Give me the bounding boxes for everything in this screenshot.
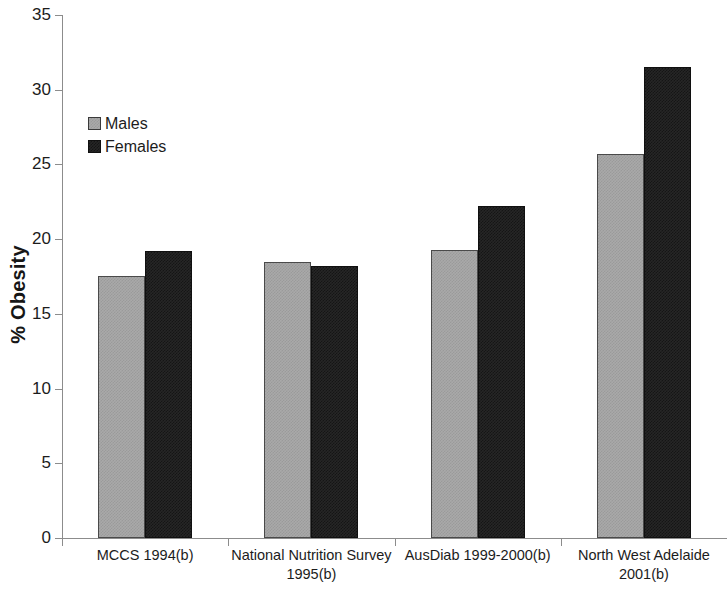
plot-area: 05101520253035 [62,15,727,538]
y-axis-tick-label: 30 [32,80,51,100]
y-axis-tick-mark [55,389,62,390]
x-axis-category-label-line: National Nutrition Survey [228,546,394,565]
y-axis-tick-label: 5 [42,453,51,473]
x-axis-category-label-line: North West Adelaide [561,546,727,565]
x-axis-category-label-line: 1995(b) [228,565,394,584]
x-axis-category-label: AusDiab 1999-2000(b) [395,546,561,565]
bar-males [264,262,311,538]
legend-item-females: Females [88,135,166,158]
y-axis-tick-mark [55,15,62,16]
x-axis-tick-mark [228,538,229,546]
bar-females [478,206,525,538]
obesity-bar-chart: % Obesity 05101520253035 MCCS 1994(b)Nat… [0,0,727,589]
x-axis-category-label-line: AusDiab 1999-2000(b) [395,546,561,565]
y-axis-line [62,15,63,538]
y-axis-tick-mark [55,164,62,165]
x-axis-category-label: North West Adelaide2001(b) [561,546,727,584]
bar-females [145,251,192,538]
bar-females [644,67,691,538]
x-axis-category-label: National Nutrition Survey1995(b) [228,546,394,584]
x-axis-tick-mark [561,538,562,546]
x-axis-category-label-line: 2001(b) [561,565,727,584]
y-axis-tick-label: 25 [32,154,51,174]
legend-label-females: Females [105,138,166,156]
x-axis-category-label-line: MCCS 1994(b) [62,546,228,565]
y-axis-tick-label: 10 [32,379,51,399]
legend-swatch-females-icon [88,140,101,153]
y-axis-tick-mark [55,314,62,315]
legend-item-males: Males [88,112,166,135]
y-axis-tick-mark [55,90,62,91]
legend-swatch-males-icon [88,117,101,130]
chart-legend: Males Females [88,112,166,158]
y-axis-tick-mark [55,463,62,464]
bar-males [431,250,478,538]
y-axis-tick-label: 35 [32,5,51,25]
y-axis-title-label: % Obesity [7,245,30,344]
bar-males [98,276,145,538]
y-axis-tick-label: 20 [32,229,51,249]
y-axis-tick-label: 0 [42,528,51,548]
y-axis-tick-label: 15 [32,304,51,324]
x-axis-tick-mark [62,538,63,546]
bar-females [311,266,358,538]
y-axis-tick-mark [55,239,62,240]
y-axis-tick-mark [55,538,62,539]
x-axis-category-label: MCCS 1994(b) [62,546,228,565]
bar-males [597,154,644,538]
y-axis-title: % Obesity [0,0,36,589]
x-axis-tick-mark [395,538,396,546]
legend-label-males: Males [105,115,148,133]
